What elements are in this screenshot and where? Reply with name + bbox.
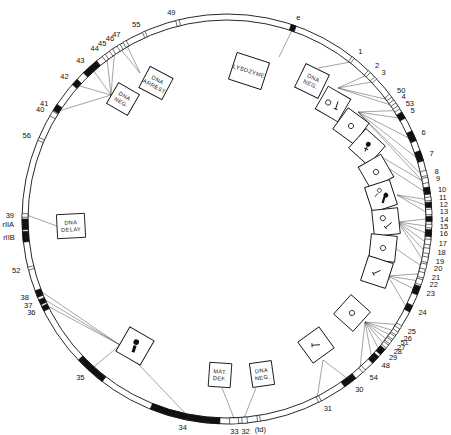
phenotype-box-head-tail-fiber-2 (116, 327, 154, 365)
gene-marker-7 (415, 151, 424, 163)
gene-label: 22 (430, 280, 438, 289)
gene-marker-10 (424, 187, 431, 195)
gene-label: 17 (439, 239, 447, 248)
phenotype-boxes: LYSOZYMEDNANEG.DNANEG.MAT.DEF.DNADELAYDN… (56, 52, 400, 387)
gene-marker-36 (42, 304, 50, 311)
gene-label: 31 (324, 404, 332, 413)
connector-tail-2-30 (323, 360, 347, 378)
gene-label: 23 (427, 289, 435, 298)
connector-head-tail-fiber-2-35 (94, 345, 120, 367)
gene-marker-48 (368, 353, 378, 364)
gene-marker-55 (142, 31, 147, 38)
gene-label: 38 (20, 293, 28, 302)
connector-dna-neg-2-32 (244, 388, 256, 417)
gene-label: 39 (6, 211, 14, 220)
gene-marker-1 (348, 57, 354, 63)
gene-marker-rIIB (22, 231, 29, 242)
gene-marker-31 (316, 396, 321, 403)
gene-marker-16 (425, 229, 431, 236)
phenotype-box-mat-def: MAT.DEF. (208, 362, 232, 387)
gene-label: 29 (389, 353, 397, 362)
gene-label: 34 (179, 423, 187, 432)
gene-label: 37 (24, 301, 32, 310)
connector-head-tail-2-14 (398, 219, 426, 222)
gene-marker-9 (422, 177, 429, 183)
gene-marker-td (257, 415, 261, 421)
gene-marker-42 (72, 79, 81, 88)
gene-marker-46 (117, 44, 123, 51)
gene-label: 56 (23, 131, 31, 140)
connector-tail-2-31 (317, 360, 323, 396)
gene-label: 18 (437, 248, 445, 257)
gene-label: 49 (167, 8, 175, 17)
gene-marker-3 (370, 77, 376, 83)
connector-dna-delay-39 (28, 216, 57, 226)
connector-mat-def-33 (222, 388, 234, 418)
connector-dna-neg-3-44 (107, 60, 111, 95)
gene-marker-53 (393, 106, 400, 112)
gene-marker-14 (426, 216, 432, 221)
gene-label: 33 (230, 427, 238, 435)
gene-marker-29 (376, 346, 385, 355)
gene-marker-13 (426, 209, 432, 214)
box-label: DEF. (213, 375, 227, 382)
gene-label: 24 (418, 308, 426, 317)
gene-label: 35 (76, 373, 84, 382)
connector-head-tail-fiber-2-38 (42, 292, 120, 345)
gene-marker-23 (412, 285, 421, 295)
connector-head-1-53 (358, 111, 394, 112)
connector-head-tail-2-18 (398, 222, 424, 250)
gene-marker-rIIA (22, 219, 28, 230)
connector-head-4-27 (365, 322, 386, 339)
connector-head-tail-2-19 (398, 222, 422, 259)
connector-dna-neg-3-45 (111, 55, 114, 95)
gene-marker-39 (22, 214, 28, 218)
gene-marker-17 (424, 239, 431, 245)
connector-lines (28, 31, 426, 418)
box-frame (334, 295, 371, 332)
gene-marker-45 (109, 49, 115, 56)
gene-label: 47 (112, 30, 120, 39)
phenotype-box-head-tail-2 (372, 208, 401, 237)
gene-marker-11 (425, 197, 431, 201)
gene-label: 3 (382, 68, 386, 77)
gene-label: 32 (241, 427, 249, 435)
gene-marker-43 (83, 61, 100, 77)
gene-marker-47 (123, 41, 129, 48)
gene-label: 54 (370, 373, 378, 382)
box-frame (372, 208, 401, 237)
connector-head-4-54 (360, 322, 365, 367)
gene-marker-8 (420, 170, 427, 177)
gene-label: 2 (375, 61, 379, 70)
connector-dna-neg-3-43 (94, 71, 111, 95)
gene-marker-5 (397, 112, 406, 121)
connector-head-tail-2-16 (398, 222, 426, 233)
phenotype-box-head-4 (334, 295, 371, 332)
connector-dna-neg-3-42 (79, 86, 111, 95)
connector-head-tail-1-3 (338, 82, 371, 88)
connector-head-4-48 (365, 322, 371, 356)
gene-marker-15 (426, 224, 432, 228)
gene-label: 42 (60, 72, 68, 81)
gene-marker-32 (242, 417, 248, 423)
phenotype-box-dna-arrest: DNAARREST (139, 66, 173, 99)
t4-genetic-map: 49e1235045356789101112131415161718192021… (0, 0, 451, 435)
gene-label: rIIB (3, 233, 15, 242)
gene-label: 55 (132, 20, 140, 29)
ring-inner-edge (28, 20, 426, 418)
connector-tail-1-21 (388, 274, 418, 276)
connector-head-tail-2-15 (398, 222, 426, 226)
connector-dna-neg-3-41 (60, 95, 111, 111)
box-label: DELAY (61, 226, 81, 233)
connector-dna-neg-1-1 (318, 62, 350, 68)
gene-label: 41 (40, 99, 48, 108)
gene-label: 48 (382, 361, 390, 370)
gene-marker-24 (404, 303, 412, 312)
gene-marker-25 (395, 323, 402, 329)
connector-lysozyme-e (279, 31, 292, 57)
gene-marker-6 (407, 131, 417, 143)
gene-label: 16 (439, 229, 447, 238)
gene-label: 6 (422, 128, 426, 137)
gene-marker-56 (38, 138, 45, 143)
gene-marker-33 (230, 418, 239, 424)
